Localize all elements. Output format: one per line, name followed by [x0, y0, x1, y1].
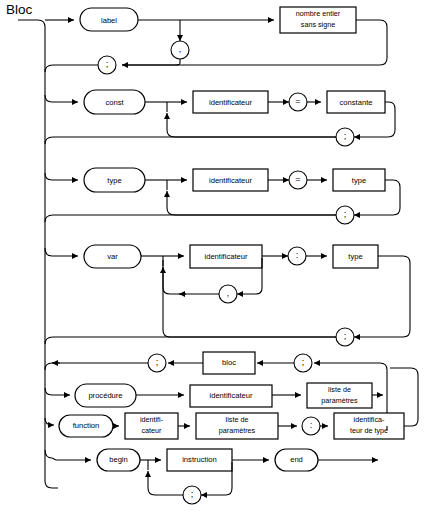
node-semicolon-bloc-left-text: ; — [156, 357, 159, 367]
section-label: label nombre entier sans signe , ; — [45, 7, 387, 74]
node-type-var-text: type — [348, 252, 362, 261]
node-liste-parametres-procedure-line2: paramètres — [321, 396, 358, 405]
node-identificateur-var-text: identificateur — [204, 252, 248, 261]
section-procedure: procédure identificateur liste de paramè… — [45, 383, 383, 408]
node-comma-label-loop-text: , — [179, 44, 182, 54]
node-semicolon-type-text: ; — [344, 209, 347, 219]
node-label-keyword-text: label — [101, 16, 117, 25]
section-begin-end: begin instruction end ; — [45, 449, 378, 504]
node-identificateur-function-line1: identifi- — [140, 415, 164, 424]
node-identificateur-de-type-line1: identifica- — [354, 415, 385, 424]
node-function-keyword-text: function — [73, 421, 100, 430]
node-instruction-box-text: instruction — [182, 455, 217, 464]
node-identificateur-procedure-text: identificateur — [209, 391, 253, 400]
node-semicolon-var-text: ; — [344, 331, 347, 341]
node-semicolon-bloc-right-text: ; — [302, 357, 305, 367]
node-begin-keyword-text: begin — [109, 455, 128, 464]
node-colon-var-text: : — [296, 250, 299, 260]
node-comma-var-loop-text: , — [227, 288, 230, 298]
node-procedure-keyword-text: procédure — [88, 391, 122, 400]
node-bloc-box-text: bloc — [222, 358, 236, 367]
node-liste-parametres-function-line2: paramètres — [219, 426, 256, 435]
node-type-value-text: type — [352, 176, 366, 185]
section-type: type identificateur = type ; — [45, 168, 400, 224]
node-identificateur-function-line2: cateur — [142, 426, 163, 435]
node-semicolon-label-text: ; — [106, 59, 109, 69]
node-end-keyword-text: end — [290, 455, 303, 464]
syntax-diagram-page: Bloc label nombre entier sans signe — [0, 0, 434, 513]
node-equals-const-text: = — [295, 96, 300, 106]
node-nombre-entier-line2: sans signe — [301, 20, 335, 29]
node-colon-function-text: : — [310, 420, 313, 430]
node-const-keyword-text: const — [105, 98, 124, 107]
node-identificateur-const-text: identificateur — [209, 98, 253, 107]
node-liste-parametres-procedure-line1: liste de — [328, 385, 351, 394]
node-semicolon-const-text: ; — [344, 131, 347, 141]
section-const: const identificateur = constante ; — [45, 90, 395, 146]
node-liste-parametres-function-line1: liste de — [226, 415, 249, 424]
node-identificateur-type-text: identificateur — [209, 176, 253, 185]
node-identificateur-de-type-line2: teur de type — [350, 426, 388, 435]
node-nombre-entier-line1: nombre entier — [296, 9, 341, 18]
node-type-keyword-text: type — [107, 176, 121, 185]
node-var-keyword-text: var — [107, 252, 118, 261]
railroad-diagram-canvas: Bloc label nombre entier sans signe — [0, 0, 434, 513]
node-constante-text: constante — [340, 98, 373, 107]
page-title: Bloc — [6, 2, 33, 17]
node-equals-type-text: = — [295, 174, 300, 184]
section-var: var identificateur : type , ; — [45, 245, 410, 346]
node-semicolon-instruction-text: ; — [191, 489, 194, 499]
